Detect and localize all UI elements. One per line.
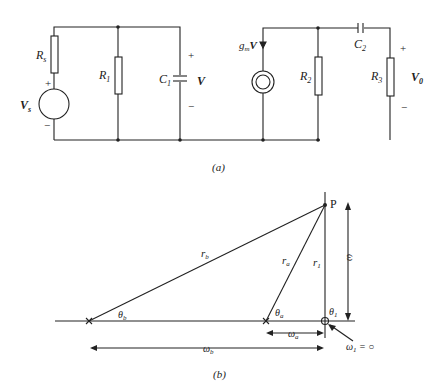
label-p: P bbox=[330, 197, 337, 211]
label-theta-1: θ1 bbox=[329, 306, 337, 319]
sign-plus-v: + bbox=[188, 49, 194, 61]
label-rb: rb bbox=[201, 247, 209, 261]
voltage-source-vs bbox=[39, 89, 69, 119]
current-arrow bbox=[260, 42, 266, 48]
label-theta-b: θb bbox=[118, 309, 127, 322]
sign-plus-v0: + bbox=[400, 42, 406, 54]
label-rs: Rs bbox=[35, 48, 46, 64]
label-r2: R2 bbox=[299, 69, 311, 85]
label-ra: ra bbox=[282, 254, 290, 268]
label-omega-b: ωb bbox=[203, 343, 214, 356]
label-gmv: gmV bbox=[239, 39, 259, 53]
label-v: V bbox=[197, 74, 206, 88]
label-vs: Vs bbox=[20, 98, 31, 114]
circuit-a bbox=[39, 22, 394, 142]
resistor-rs bbox=[51, 36, 58, 73]
sign-plus-vs: + bbox=[45, 77, 51, 89]
junction-dots bbox=[116, 25, 320, 142]
figure: Rs + Vs − R1 C1 + V − gmV R2 C2 R3 + V0 … bbox=[0, 0, 441, 389]
pole-zero-diagram-b bbox=[55, 192, 355, 348]
current-source-inner bbox=[256, 75, 270, 89]
caption-a: (a) bbox=[212, 161, 225, 174]
label-theta-a: θa bbox=[275, 307, 284, 320]
sign-minus-v: − bbox=[188, 100, 194, 112]
sign-minus-vs: − bbox=[44, 119, 50, 131]
label-omega: ω bbox=[345, 254, 356, 261]
wire-top-right bbox=[263, 28, 390, 140]
sign-minus-v0: − bbox=[401, 101, 407, 113]
label-r1: R1 bbox=[98, 68, 110, 84]
label-c1: C1 bbox=[159, 72, 171, 88]
resistor-r3 bbox=[387, 58, 394, 96]
arrowheads bbox=[90, 202, 351, 351]
label-r3: R3 bbox=[370, 69, 382, 85]
resistor-r2 bbox=[315, 57, 322, 95]
label-c2: C2 bbox=[354, 37, 366, 53]
circuit-a-labels: Rs + Vs − R1 C1 + V − gmV R2 C2 R3 + V0 … bbox=[20, 37, 423, 174]
caption-b: (b) bbox=[213, 368, 226, 381]
point-p-dot bbox=[323, 203, 327, 207]
resistor-r1 bbox=[115, 57, 122, 94]
diagram-b-labels: P rb ra r1 ω θb θa θ1 ωa ωb ω1 = ○ (b) bbox=[118, 197, 374, 381]
label-omega-1: ω1 = ○ bbox=[346, 341, 374, 354]
label-v0: V0 bbox=[411, 70, 423, 86]
label-omega-a: ωa bbox=[288, 328, 299, 341]
label-r1: r1 bbox=[313, 256, 321, 270]
